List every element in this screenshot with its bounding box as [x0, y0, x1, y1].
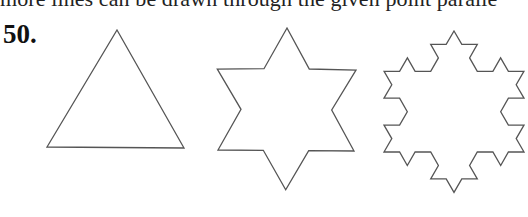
snowflake-figure — [384, 31, 524, 192]
figures-canvas — [0, 0, 528, 217]
star-figure — [217, 28, 356, 190]
triangle-figure — [47, 30, 184, 148]
